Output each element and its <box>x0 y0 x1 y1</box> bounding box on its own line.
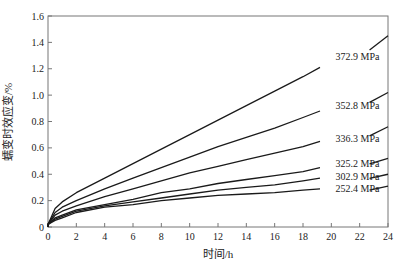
y-tick-label: 0.8 <box>32 116 45 127</box>
x-tick-label: 22 <box>355 231 365 242</box>
curve-labels: 372.9 MPa352.8 MPa336.3 MPa325.2 MPa302.… <box>336 51 380 194</box>
curve-3729 <box>48 67 320 227</box>
y-tick-label: 0.2 <box>32 195 45 206</box>
curves <box>48 36 388 227</box>
x-tick-label: 2 <box>74 231 79 242</box>
curve-label: 336.3 MPa <box>336 133 380 144</box>
x-tick-label: 16 <box>270 231 280 242</box>
x-tick-label: 12 <box>213 231 223 242</box>
creep-strain-chart: 02468101214161820222400.20.40.60.81.01.2… <box>0 0 400 269</box>
curve-tail <box>370 36 388 50</box>
curve-label: 252.4 MPa <box>336 183 380 194</box>
axes: 02468101214161820222400.20.40.60.81.01.2… <box>32 11 394 243</box>
y-axis-label: 蠕变时效应变/% <box>1 83 14 161</box>
curve-label: 325.2 MPa <box>336 158 380 169</box>
x-tick-label: 0 <box>46 231 51 242</box>
curve-label: 372.9 MPa <box>336 51 380 62</box>
y-tick-label: 1.2 <box>32 63 45 74</box>
x-axis-label: 时间/h <box>203 248 234 260</box>
y-tick-label: 1.4 <box>32 37 45 48</box>
y-tick-label: 0.6 <box>32 142 45 153</box>
x-tick-label: 10 <box>185 231 195 242</box>
x-tick-label: 14 <box>241 231 251 242</box>
x-tick-label: 24 <box>383 231 393 242</box>
curve-label: 352.8 MPa <box>336 100 380 111</box>
x-tick-label: 4 <box>102 231 107 242</box>
curve-3029 <box>48 178 320 227</box>
y-tick-label: 1.6 <box>32 11 45 22</box>
y-tick-label: 0 <box>39 222 44 233</box>
y-tick-label: 0.4 <box>32 169 45 180</box>
curve-3252 <box>48 168 320 227</box>
y-tick-label: 1.0 <box>32 90 45 101</box>
x-tick-label: 8 <box>159 231 164 242</box>
x-tick-label: 20 <box>326 231 336 242</box>
curve-label: 302.9 MPa <box>336 171 380 182</box>
x-tick-label: 6 <box>131 231 136 242</box>
x-tick-label: 18 <box>298 231 308 242</box>
